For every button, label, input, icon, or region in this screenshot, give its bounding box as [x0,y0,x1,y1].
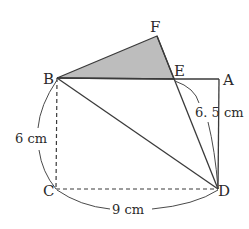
diagonal-bd [57,78,218,189]
label-bc-length: 6 cm [15,131,47,146]
dashed-segment-bc [56,78,57,189]
label-point-c: C [43,182,54,200]
shaded-triangle-bfe [57,36,174,79]
label-point-d: D [218,182,230,200]
arc-cd-9cm [57,190,110,209]
label-point-b: B [43,70,54,88]
label-cd-length: 9 cm [112,202,144,217]
label-point-f: F [150,18,160,36]
arc-ed-6-5cm [175,81,199,103]
arc-cd-9cm-right [152,190,218,209]
label-point-a: A [222,71,234,89]
label-ed-length: 6. 5 cm [195,105,244,120]
geometry-figure: F B E A C D 6 cm 9 cm 6. 5 cm [0,0,249,229]
label-point-e: E [174,62,185,80]
segment-ad [218,79,219,189]
